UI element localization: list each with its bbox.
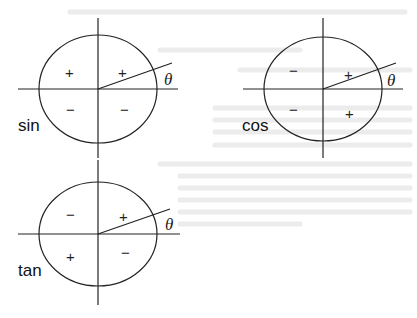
sin-angle-ray: [98, 63, 172, 89]
tan-theta-label: θ: [165, 215, 173, 234]
tan-function-label: tan: [18, 261, 42, 280]
sin-theta-label: θ: [164, 70, 172, 89]
cos-q4-sign: +: [345, 105, 354, 122]
cos-q3-sign: −: [289, 101, 298, 118]
sin-panel: [18, 18, 178, 158]
tan-panel: [18, 160, 180, 305]
tan-q3-sign: +: [66, 248, 75, 265]
sin-q2-sign: +: [65, 64, 74, 81]
sin-q3-sign: −: [66, 101, 75, 118]
cos-panel: [243, 18, 403, 158]
tan-angle-ray: [98, 209, 170, 234]
cos-q2-sign: −: [289, 62, 298, 79]
tan-q1-sign: +: [119, 208, 128, 225]
sin-function-label: sin: [18, 116, 40, 135]
cos-theta-label: θ: [387, 71, 395, 90]
sin-q1-sign: +: [118, 64, 127, 81]
cos-angle-ray: [323, 63, 396, 89]
tan-q4-sign: −: [121, 244, 130, 261]
trig-sign-diagram: + + − − θ sin − + − + θ cos − + + − θ ta…: [0, 0, 417, 318]
sin-q4-sign: −: [120, 101, 129, 118]
cos-q1-sign: +: [344, 66, 353, 83]
cos-function-label: cos: [242, 116, 268, 135]
tan-q2-sign: −: [66, 206, 75, 223]
